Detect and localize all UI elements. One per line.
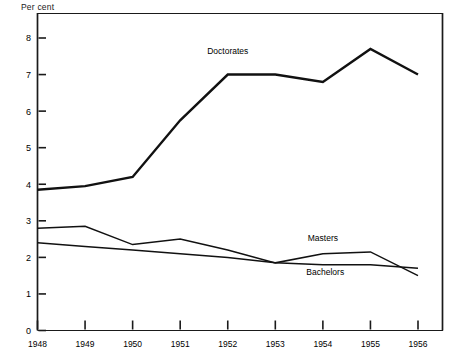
chart-figure: Per cent 012345678 194819491950195119521… (0, 0, 449, 356)
series-line-doctorates (38, 49, 419, 190)
x-axis-tick-label: 1951 (171, 339, 190, 349)
y-axis-tick-label: 3 (26, 216, 31, 226)
x-axis-tick-label: 1956 (409, 339, 428, 349)
y-axis-tick-label: 5 (26, 143, 31, 153)
y-axis-tick-label: 1 (26, 289, 31, 299)
x-axis-tick-label: 1952 (218, 339, 237, 349)
y-axis-tick-label: 8 (26, 33, 31, 43)
x-axis-tick-label: 1954 (313, 339, 332, 349)
y-axis-tick-label: 4 (26, 180, 31, 190)
series-label-masters: Masters (308, 233, 338, 243)
data-series-lines (38, 49, 419, 276)
y-axis-tick-label: 2 (26, 253, 31, 263)
y-axis-tick-label: 6 (26, 107, 31, 117)
y-axis-tick-labels: 012345678 (26, 33, 31, 336)
y-axis-tick-label: 7 (26, 70, 31, 80)
x-axis-tick-label: 1955 (361, 339, 380, 349)
x-axis-tick-label: 1950 (123, 339, 142, 349)
x-axis-tick-label: 1953 (266, 339, 285, 349)
line-chart-plot: 012345678 194819491950195119521953195419… (0, 0, 449, 356)
y-axis-ticks (39, 38, 47, 331)
series-line-masters (38, 226, 419, 275)
x-axis-ticks (38, 321, 419, 330)
series-label-doctorates: Doctorates (207, 46, 248, 56)
series-label-bachelors: Bachelors (306, 267, 344, 277)
x-axis-tick-label: 1948 (28, 339, 47, 349)
plot-frame (38, 13, 444, 331)
x-axis-tick-labels: 194819491950195119521953195419551956 (28, 339, 428, 349)
x-axis-tick-label: 1949 (76, 339, 95, 349)
series-line-bachelors (38, 243, 419, 269)
y-axis-tick-label: 0 (26, 326, 31, 336)
